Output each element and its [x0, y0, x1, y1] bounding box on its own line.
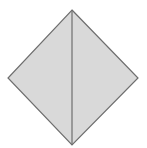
left-triangle	[8, 10, 72, 145]
diamond-figure	[0, 0, 147, 148]
right-triangle	[72, 10, 138, 145]
diagram-canvas	[0, 0, 147, 148]
